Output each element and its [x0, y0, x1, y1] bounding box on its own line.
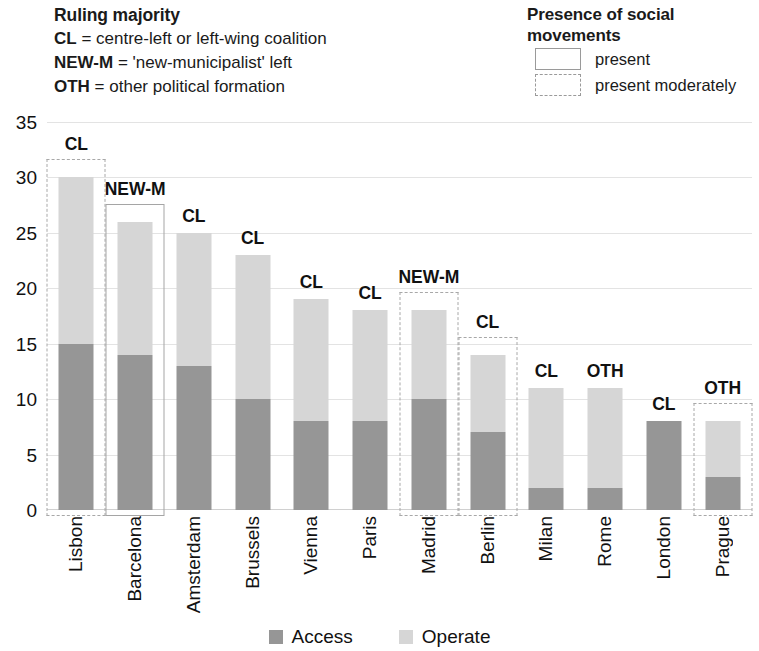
bar-group[interactable]: NEW-M: [106, 122, 165, 510]
bar-segment-access[interactable]: [529, 488, 564, 510]
stacked-bar[interactable]: [176, 233, 211, 510]
access-swatch-icon: [269, 630, 283, 644]
bar-segment-access[interactable]: [646, 421, 681, 510]
dashed-box-swatch-icon: [535, 74, 581, 96]
social-legend-label-moderate: present moderately: [595, 76, 736, 95]
ruling-majority-tag: CL: [241, 228, 264, 249]
stacked-bar[interactable]: [529, 388, 564, 510]
ruling-majority-tag: CL: [476, 312, 499, 333]
x-axis-label-wrapper: Vienna: [282, 516, 341, 620]
bar-segment-access[interactable]: [59, 344, 94, 510]
bar-segment-operate[interactable]: [470, 355, 505, 433]
ruling-majority-tag: OTH: [587, 361, 624, 382]
y-tick-label-5: 5: [26, 445, 37, 464]
stacked-bar[interactable]: [705, 421, 740, 510]
ruling-majority-tag: CL: [182, 206, 205, 227]
ruling-majority-desc-oth: = other political formation: [90, 77, 285, 96]
bar-segment-access[interactable]: [235, 399, 270, 510]
bar-segment-access[interactable]: [176, 366, 211, 510]
bar-group[interactable]: CL: [282, 122, 341, 510]
ruling-majority-code-cl: CL: [54, 29, 77, 48]
stacked-bar[interactable]: [59, 177, 94, 510]
bar-group[interactable]: CL: [341, 122, 400, 510]
x-axis-label-wrapper: Barcelona: [106, 516, 165, 620]
bar-segment-operate[interactable]: [588, 388, 623, 488]
bar-segment-operate[interactable]: [411, 310, 446, 399]
social-legend-item-present: present: [535, 46, 759, 72]
stacked-bar[interactable]: [294, 299, 329, 510]
y-tick-label-20: 20: [16, 279, 37, 298]
bar-group[interactable]: CL: [635, 122, 694, 510]
social-movements-legend: Presence of social movements present pre…: [527, 4, 759, 98]
ruling-majority-tag: NEW-M: [398, 267, 459, 288]
operate-swatch-icon: [399, 630, 413, 644]
series-legend-item-operate: Operate: [399, 626, 491, 648]
x-axis-label-paris: Paris: [359, 516, 381, 559]
stacked-bar[interactable]: [588, 388, 623, 510]
chart-plot-area: CLNEW-MCLCLCLCLNEW-MCLCLOTHCLOTH: [47, 122, 752, 510]
bar-segment-operate[interactable]: [294, 299, 329, 421]
y-tick-label-25: 25: [16, 223, 37, 242]
bar-segment-access[interactable]: [353, 421, 388, 510]
bar-group[interactable]: CL: [47, 122, 106, 510]
bar-segment-operate[interactable]: [705, 421, 740, 476]
bar-group[interactable]: OTH: [693, 122, 752, 510]
x-axis-label-barcelona: Barcelona: [124, 516, 146, 602]
stacked-bar[interactable]: [411, 310, 446, 510]
bar-segment-operate[interactable]: [353, 310, 388, 421]
ruling-majority-tag: CL: [358, 283, 381, 304]
stacked-bar[interactable]: [353, 310, 388, 510]
x-axis-label-wrapper: Lisbon: [47, 516, 106, 620]
y-tick-label-10: 10: [16, 390, 37, 409]
ruling-majority-tag: CL: [65, 134, 88, 155]
bar-segment-operate[interactable]: [59, 177, 94, 343]
ruling-majority-legend: Ruling majority CL = centre-left or left…: [54, 4, 484, 99]
bar-segment-access[interactable]: [411, 399, 446, 510]
bar-segment-access[interactable]: [705, 477, 740, 510]
x-axis-label-prague: Prague: [712, 516, 734, 577]
y-tick-label-30: 30: [16, 168, 37, 187]
stacked-bar[interactable]: [470, 355, 505, 510]
ruling-majority-desc-cl: = centre-left or left-wing coalition: [77, 29, 327, 48]
x-axis-category-labels: LisbonBarcelonaAmsterdamBrusselsViennaPa…: [47, 512, 752, 620]
x-axis-label-wrapper: Brussels: [223, 516, 282, 620]
bar-segment-operate[interactable]: [176, 233, 211, 366]
bar-segment-operate[interactable]: [118, 222, 153, 355]
y-tick-label-0: 0: [26, 501, 37, 520]
x-axis-label-madrid: Madrid: [418, 516, 440, 574]
bar-segment-access[interactable]: [294, 421, 329, 510]
ruling-majority-code-oth: OTH: [54, 77, 90, 96]
y-tick-label-35: 35: [16, 113, 37, 132]
social-movements-title: Presence of social movements: [527, 4, 759, 46]
bar-group[interactable]: CL: [223, 122, 282, 510]
y-axis-tick-labels: 05101520253035: [0, 122, 43, 510]
social-legend-item-moderate: present moderately: [535, 72, 759, 98]
x-axis-label-milan: Milan: [535, 516, 557, 561]
x-axis-label-london: London: [653, 516, 675, 579]
x-axis-label-brussels: Brussels: [242, 516, 264, 589]
ruling-majority-tag: OTH: [704, 378, 741, 399]
series-legend-label-access: Access: [292, 626, 353, 648]
x-axis-label-wrapper: Rome: [576, 516, 635, 620]
stacked-bar[interactable]: [118, 222, 153, 510]
bar-segment-access[interactable]: [588, 488, 623, 510]
ruling-majority-title: Ruling majority: [54, 4, 484, 27]
ruling-majority-code-newm: NEW-M: [54, 53, 113, 72]
bar-group[interactable]: OTH: [576, 122, 635, 510]
bar-group[interactable]: NEW-M: [400, 122, 459, 510]
stacked-bar[interactable]: [235, 255, 270, 510]
bar-segment-operate[interactable]: [235, 255, 270, 399]
series-legend-item-access: Access: [269, 626, 353, 648]
x-axis-label-wrapper: London: [635, 516, 694, 620]
bar-segment-access[interactable]: [118, 355, 153, 510]
x-axis-label-berlin: Berlin: [477, 516, 499, 565]
x-axis-label-wrapper: Amsterdam: [165, 516, 224, 620]
stacked-bar[interactable]: [646, 421, 681, 510]
bar-group[interactable]: CL: [165, 122, 224, 510]
ruling-majority-desc-newm: = 'new-municipalist' left: [113, 53, 292, 72]
bar-segment-access[interactable]: [470, 432, 505, 510]
bar-group[interactable]: CL: [517, 122, 576, 510]
ruling-majority-entry-cl: CL = centre-left or left-wing coalition: [54, 27, 484, 51]
bar-segment-operate[interactable]: [529, 388, 564, 488]
bar-group[interactable]: CL: [458, 122, 517, 510]
